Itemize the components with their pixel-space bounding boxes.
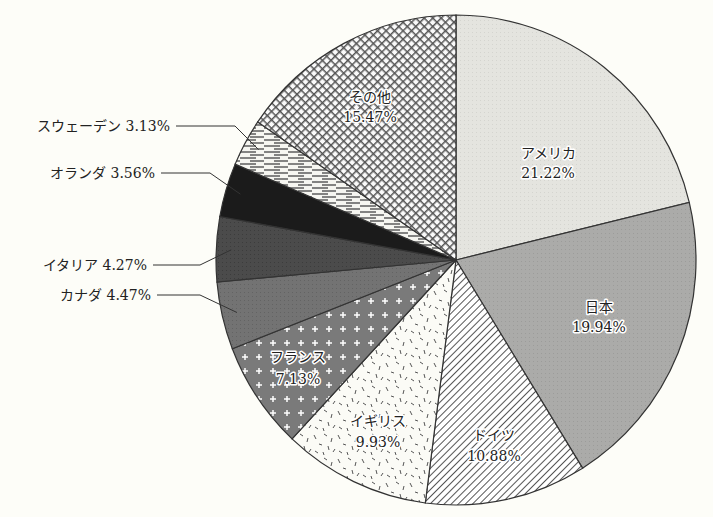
outer-label-canada: カナダ 4.47%: [60, 287, 151, 303]
label-value: 21.22%: [521, 165, 574, 181]
label-value: 10.88%: [467, 448, 520, 464]
pie-chart: アメリカ 21.22% 日本 19.94% ドイツ 10.88% イギリス 9.…: [0, 0, 713, 517]
label-value: 7.13%: [276, 371, 320, 387]
pie-slices: [216, 15, 696, 505]
label-name: フランス: [270, 349, 326, 365]
outer-label-sweden: スウェーデン 3.13%: [37, 118, 170, 134]
label-name: 日本: [585, 299, 613, 315]
outer-label-netherlands: オランダ 3.56%: [50, 165, 155, 181]
label-name: その他: [349, 89, 391, 105]
outer-label-italy: イタリア 4.27%: [43, 257, 147, 273]
label-name: アメリカ: [521, 145, 576, 161]
label-value: 15.47%: [343, 109, 396, 125]
label-name: ドイツ: [473, 427, 515, 443]
label-name: イギリス: [350, 413, 406, 429]
label-value: 19.94%: [572, 319, 625, 335]
label-value: 9.93%: [356, 434, 400, 450]
